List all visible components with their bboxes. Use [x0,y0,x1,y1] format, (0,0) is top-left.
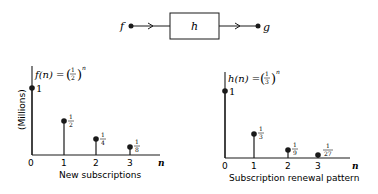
system-label: h [191,20,198,33]
x-tick-0: 0 [28,158,34,168]
function-label: h(n) = [228,73,260,84]
output-label: g [263,21,270,34]
point-label-3-num: 1 [135,138,139,145]
stem-point-0 [29,85,35,91]
exponent: n [276,68,280,75]
stem-point-1 [251,131,257,137]
point-label-2-num: 1 [101,131,105,138]
point-label-3-num: 1 [326,142,330,149]
x-axis-label: New subscriptions [59,170,141,180]
block-diagram: f h g [119,13,270,39]
point-label-1-den: 3 [259,133,263,140]
stem-point-2 [285,147,291,153]
figure: f h g (Millions) f(n) = ( 1 2 ) n 1 1 2 [0,0,378,194]
left-stem-chart: (Millions) f(n) = ( 1 2 ) n 1 1 2 1 4 1 … [17,64,165,180]
right-stem-chart: h(n) = ( 1 3 ) n 1 1 3 1 9 1 27 0 1 2 3 … [222,68,359,183]
x-tick-3: 3 [315,161,321,171]
x-axis-var: n [158,158,165,168]
point-label-1-den: 2 [69,121,73,128]
stem-point-3 [127,144,133,150]
point-label-3-den: 27 [324,150,332,157]
stem-point-0 [222,88,228,94]
base-num: 1 [265,70,269,77]
base-den: 2 [71,74,75,81]
y-axis-label: (Millions) [17,89,27,130]
x-tick-2: 2 [93,158,99,168]
stem-point-3 [315,152,321,158]
output-node [256,24,261,29]
point-label-2-num: 1 [293,141,297,148]
point-label-1-num: 1 [259,125,263,132]
x-tick-2: 2 [285,161,291,171]
x-tick-1: 1 [251,161,257,171]
base-den: 3 [265,78,269,85]
base-num: 1 [71,66,75,73]
x-tick-0: 0 [222,161,228,171]
stem-point-2 [93,136,99,142]
point-label-0: 1 [229,86,235,97]
exponent: n [82,64,86,71]
input-label: f [119,20,126,33]
point-label-1-num: 1 [69,113,73,120]
x-tick-1: 1 [61,158,67,168]
stem-point-1 [61,118,67,124]
function-label: f(n) = [34,69,65,80]
point-label-3-den: 8 [135,146,139,153]
x-axis-var: n [352,161,359,171]
point-label-2-den: 9 [293,149,297,156]
point-label-0: 1 [36,83,42,94]
point-label-2-den: 4 [101,139,105,146]
x-axis-label: Subscription renewal pattern [229,173,359,183]
x-tick-3: 3 [127,158,133,168]
